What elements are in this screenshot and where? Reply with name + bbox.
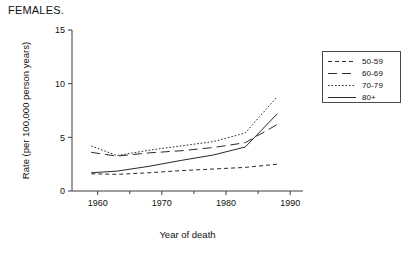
legend-label: 50-59 bbox=[362, 57, 383, 66]
series-line-50-59 bbox=[91, 164, 277, 174]
data-series-group bbox=[91, 97, 277, 175]
legend-swatch-long-dash-icon bbox=[327, 69, 357, 78]
legend: 50-5960-6970-7980+ bbox=[322, 51, 401, 103]
legend-label: 70-79 bbox=[362, 81, 383, 90]
legend-swatch-solid-icon bbox=[327, 93, 357, 102]
x-tick-label: 1970 bbox=[152, 198, 172, 208]
line-chart: 0510151960197019801990 bbox=[72, 30, 303, 191]
legend-swatch-short-dash-icon bbox=[327, 57, 357, 66]
y-tick-label: 15 bbox=[55, 25, 65, 35]
y-axis-title: Rate (per 100,000 person years) bbox=[18, 30, 32, 191]
figure-root: FEMALES. Rate (per 100,000 person years)… bbox=[0, 0, 407, 256]
y-tick-label: 5 bbox=[60, 133, 65, 143]
x-tick-label: 1980 bbox=[216, 198, 236, 208]
legend-swatch-dotted-icon bbox=[327, 81, 357, 90]
tick-labels: 0510151960197019801990 bbox=[55, 25, 300, 208]
legend-item-50-59[interactable]: 50-59 bbox=[323, 56, 400, 67]
series-line-70-79 bbox=[91, 97, 277, 156]
legend-label: 80+ bbox=[362, 93, 376, 102]
legend-item-80plus[interactable]: 80+ bbox=[323, 92, 400, 103]
x-tick-label: 1960 bbox=[88, 198, 108, 208]
legend-label: 60-69 bbox=[362, 69, 383, 78]
series-line-80plus bbox=[91, 114, 277, 173]
page-title: FEMALES. bbox=[8, 4, 64, 16]
legend-item-70-79[interactable]: 70-79 bbox=[323, 80, 400, 91]
y-tick-label: 10 bbox=[55, 79, 65, 89]
x-tick-label: 1990 bbox=[280, 198, 300, 208]
x-axis-title: Year of death bbox=[72, 229, 303, 240]
legend-item-60-69[interactable]: 60-69 bbox=[323, 68, 400, 79]
series-line-60-69 bbox=[91, 124, 277, 156]
y-tick-label: 0 bbox=[60, 186, 65, 196]
plot-area: 0510151960197019801990 bbox=[72, 30, 303, 191]
